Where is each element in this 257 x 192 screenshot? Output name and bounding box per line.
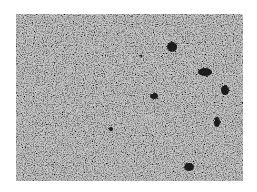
speckled-texture-image — [16, 14, 243, 181]
dark-spot — [150, 93, 158, 99]
dark-spot — [184, 163, 194, 171]
dark-spot — [140, 55, 143, 58]
noise-texture — [16, 14, 243, 181]
texture-highlights — [16, 14, 243, 181]
dark-spot — [214, 117, 220, 127]
dark-spot — [221, 85, 229, 95]
dark-spot — [198, 68, 212, 76]
dark-spot — [167, 42, 177, 52]
dark-spot — [109, 127, 113, 131]
